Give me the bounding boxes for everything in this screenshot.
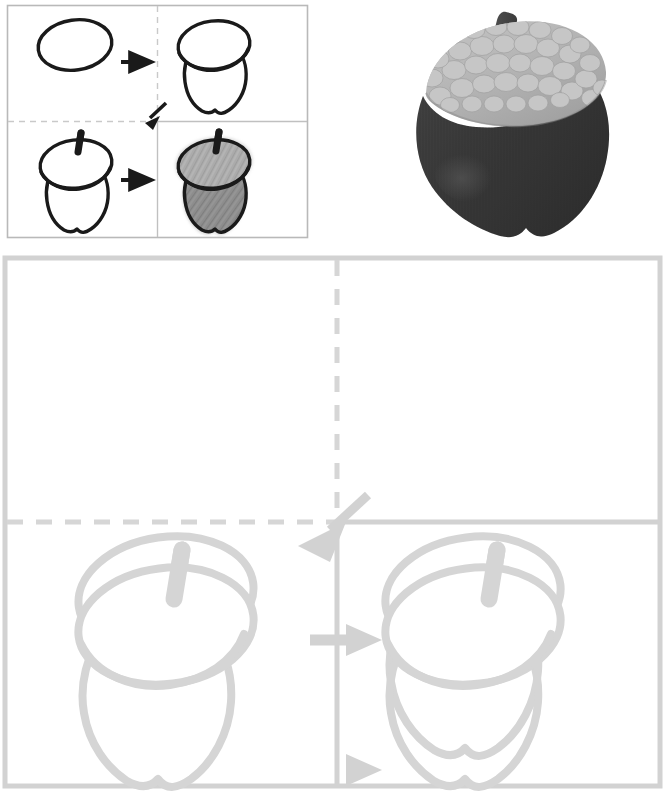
- step-by-step-thumbnail: [0, 0, 320, 248]
- tutorial-canvas: [0, 0, 668, 794]
- finished-acorn-illustration: [404, 0, 668, 248]
- step-by-step-large-worksheet: [0, 250, 668, 794]
